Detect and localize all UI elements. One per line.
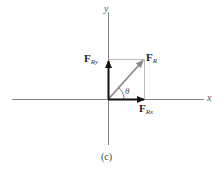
x-axis-label: x (207, 93, 211, 103)
y-component-label: FRy (84, 53, 98, 66)
angle-label: θ (125, 87, 129, 96)
y-axis-label: y (104, 4, 108, 14)
x-component-label: FRx (139, 103, 153, 116)
angle-arc (119, 88, 124, 100)
resultant-vector-label: FR (146, 52, 157, 65)
figure-caption: (c) (101, 152, 112, 162)
force-diagram: y x FR FRy FRx θ (c) (0, 0, 220, 182)
